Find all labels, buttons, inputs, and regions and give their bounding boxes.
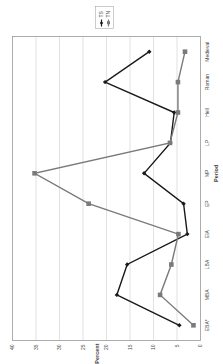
x-tick-label: EP	[203, 199, 209, 206]
x-tick-label: Roman	[203, 73, 209, 89]
y-tick-label: 15	[126, 344, 132, 350]
legend-label: TN	[105, 10, 111, 17]
series-line	[105, 51, 187, 325]
x-tick-label: LP	[203, 139, 209, 146]
legend: TSTN	[95, 6, 113, 28]
square-marker	[167, 140, 172, 145]
x-tick-label: LBA	[203, 259, 209, 269]
y-tick-label: 25	[79, 344, 85, 350]
series-line	[34, 51, 193, 325]
chart-stage: 0510152025303540 EBA*MBALBAEIAEPMPLPHell…	[0, 0, 223, 364]
data-series	[32, 49, 195, 327]
square-marker	[176, 231, 181, 236]
y-tick-label: 5	[173, 344, 179, 347]
y-tick-label: 40	[9, 344, 15, 350]
x-tick-label: MP	[203, 168, 209, 176]
x-tick-label: EIA	[203, 229, 209, 238]
y-axis-ticks: 0510152025303540	[9, 344, 203, 350]
x-tick-label: MBA	[203, 288, 209, 300]
square-marker	[191, 323, 196, 328]
series-tn	[32, 49, 195, 327]
square-marker	[86, 201, 91, 206]
y-tick-label: 35	[32, 344, 38, 350]
diamond-marker	[124, 262, 128, 266]
rotated-chart: 0510152025303540 EBA*MBALBAEIAEPMPLPHell…	[0, 0, 223, 364]
square-marker	[175, 110, 180, 115]
x-tick-label: Hell	[203, 108, 209, 117]
square-marker	[182, 49, 187, 54]
y-tick-label: 30	[56, 344, 62, 350]
y-axis-title: Percent	[94, 343, 100, 363]
square-marker	[157, 292, 162, 297]
x-axis-ticks: EBA*MBALBAEIAEPMPLPHellRomanMedieval	[203, 41, 209, 331]
square-marker	[32, 171, 37, 176]
x-tick-label: EBA*	[203, 319, 209, 331]
legend-label: TS	[98, 10, 104, 17]
series-ts	[102, 49, 189, 327]
y-tick-label: 0	[197, 344, 203, 347]
x-axis-title: Period	[212, 164, 218, 181]
square-marker	[169, 262, 174, 267]
y-tick-label: 10	[150, 344, 156, 350]
line-chart: 0510152025303540 EBA*MBALBAEIAEPMPLPHell…	[0, 0, 223, 364]
y-tick-label: 20	[103, 344, 109, 350]
diamond-marker	[102, 79, 106, 83]
square-marker	[175, 79, 180, 84]
x-tick-label: Medieval	[203, 41, 209, 61]
